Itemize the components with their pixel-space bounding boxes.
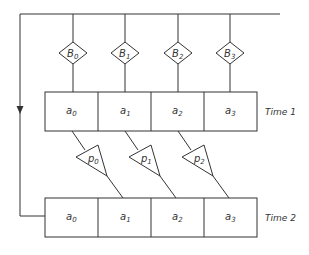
bottom-cell-a2: a2 [172, 211, 183, 224]
feedback-return-line [20, 14, 45, 216]
top-cell-a1: a1 [120, 105, 131, 118]
time1-label: Time 1 [265, 107, 296, 117]
top-cell-a2: a2 [172, 105, 183, 118]
bottom-cell-a0: a0 [66, 211, 77, 224]
bottom-cell-a1: a1 [120, 211, 131, 224]
top-cell-a3: a3 [225, 105, 236, 118]
bottom-cell-a3: a3 [225, 211, 236, 224]
time2-label: Time 2 [265, 213, 296, 223]
top-cell-a0: a0 [66, 105, 77, 118]
arrow-down-icon [17, 106, 24, 114]
shift-register-diagram: B0 B1 B2 B3 a0 a1 a2 a3 Time 1 p0 p1 p2 … [0, 0, 309, 255]
